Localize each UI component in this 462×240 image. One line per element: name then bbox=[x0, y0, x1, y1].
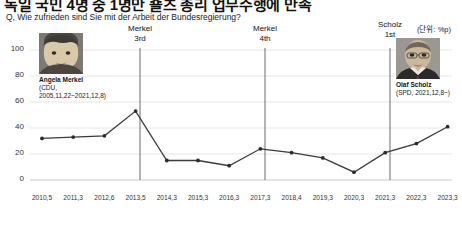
data-line bbox=[42, 111, 448, 172]
angela-merkel-term: 2005,11,22~2021,12,8) bbox=[39, 92, 106, 100]
y-tick-0: 0 bbox=[2, 174, 24, 183]
era-label-line2: 3rd bbox=[115, 34, 165, 44]
y-tick-20: 20 bbox=[2, 148, 24, 157]
olaf-scholz-name: Olaf Scholz bbox=[396, 81, 450, 89]
angela-merkel-caption: Angela Merkel (CDU, 2005,11,22~2021,12,8… bbox=[39, 76, 106, 101]
era-label-line2: 4th bbox=[240, 34, 290, 44]
olaf-scholz-photo bbox=[396, 38, 440, 79]
angela-merkel-photo bbox=[39, 33, 83, 74]
angela-merkel-party: (CDU, bbox=[39, 84, 106, 92]
y-tick-80: 80 bbox=[2, 70, 24, 79]
era-label-line1: Merkel bbox=[240, 24, 290, 34]
era-label-line1: Merkel bbox=[115, 24, 165, 34]
angela-merkel-name: Angela Merkel bbox=[39, 76, 106, 84]
y-tick-40: 40 bbox=[2, 122, 24, 131]
person-block-angela-merkel: Angela Merkel (CDU, 2005,11,22~2021,12,8… bbox=[39, 33, 106, 101]
era-label-merkel-3rd: Merkel 3rd bbox=[115, 24, 165, 43]
era-label-scholz-1st: Scholz 1st bbox=[365, 20, 415, 39]
y-tick-100: 100 bbox=[2, 44, 24, 53]
olaf-scholz-caption: Olaf Scholz (SPD, 2021,12,8~) bbox=[396, 81, 450, 97]
era-label-line1: Scholz bbox=[365, 20, 415, 30]
y-tick-60: 60 bbox=[2, 96, 24, 105]
x-tick-13: 2023,3 bbox=[428, 194, 462, 201]
olaf-scholz-party-term: (SPD, 2021,12,8~) bbox=[396, 89, 450, 97]
person-block-olaf-scholz: Olaf Scholz (SPD, 2021,12,8~) bbox=[396, 38, 450, 97]
data-markers bbox=[40, 109, 449, 174]
era-label-merkel-4th: Merkel 4th bbox=[240, 24, 290, 43]
